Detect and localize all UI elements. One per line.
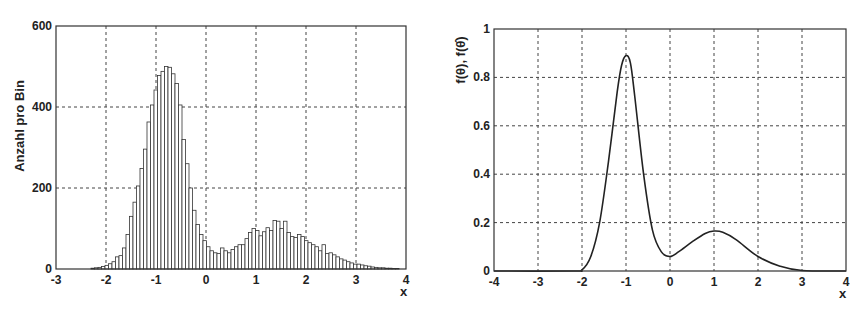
histogram-bars — [91, 67, 399, 270]
histogram-bar — [319, 251, 323, 269]
histogram-bar — [154, 90, 158, 269]
histogram-bar — [350, 263, 354, 269]
histogram-bar — [273, 220, 277, 269]
histogram-bar — [308, 243, 312, 269]
histogram-bar — [322, 245, 326, 269]
histogram-bar — [144, 149, 148, 269]
histogram-bar — [161, 71, 165, 269]
histogram-bar — [298, 235, 302, 269]
histogram-bar — [221, 248, 225, 269]
histogram-bar — [210, 251, 214, 269]
histogram-bar — [231, 250, 235, 269]
histogram-bar — [186, 164, 190, 269]
histogram-bar — [126, 235, 130, 269]
x-tick-label: 2 — [303, 273, 310, 287]
histogram-bar — [175, 84, 179, 269]
histogram-bar — [123, 248, 127, 269]
histogram-bar — [189, 188, 193, 269]
x-tick-label: -1 — [151, 273, 162, 287]
histogram-bar — [116, 257, 120, 269]
y-tick-label: 200 — [32, 181, 52, 195]
histogram-bar — [340, 259, 344, 269]
histogram-bar — [203, 241, 207, 269]
histogram-bar — [315, 247, 319, 269]
x-tick-label: -1 — [621, 275, 632, 289]
histogram-bar — [263, 232, 267, 269]
histogram-bar — [256, 231, 260, 269]
histogram-bar — [109, 264, 113, 269]
x-tick-label: -2 — [577, 275, 588, 289]
histogram-bar — [249, 233, 253, 269]
histogram-bar — [301, 237, 305, 269]
histogram-bar — [182, 139, 186, 269]
y-tick-labels: 0200400600 — [32, 19, 52, 276]
histogram-bar — [312, 245, 316, 269]
x-tick-label: 3 — [799, 275, 806, 289]
x-axis-label: x — [839, 286, 847, 301]
histogram-bar — [112, 262, 116, 269]
y-tick-label: 0.6 — [473, 119, 490, 133]
x-tick-label: 3 — [353, 273, 360, 287]
histogram-chart: -3-2-101234 0200400600 x Anzahl pro Bin — [12, 19, 410, 299]
histogram-bar — [252, 229, 256, 270]
histogram-bar — [287, 233, 291, 269]
histogram-bar — [326, 254, 330, 269]
histogram-bar — [179, 105, 183, 269]
y-axis-label: Anzahl pro Bin — [12, 80, 27, 172]
x-tick-label: -2 — [101, 273, 112, 287]
histogram-bar — [333, 255, 337, 269]
y-tick-label: 0.8 — [473, 70, 490, 84]
histogram-bar — [259, 236, 263, 269]
x-tick-label: 0 — [203, 273, 210, 287]
histogram-bar — [294, 237, 298, 269]
x-tick-label: 1 — [253, 273, 260, 287]
y-tick-label: 0 — [45, 262, 52, 276]
histogram-bar — [200, 235, 204, 269]
histogram-bar — [172, 74, 176, 269]
x-tick-label: 2 — [755, 275, 762, 289]
x-axis-label: x — [400, 284, 408, 299]
x-tick-label: -3 — [533, 275, 544, 289]
x-tick-labels: -3-2-101234 — [51, 273, 410, 287]
histogram-bar — [235, 247, 239, 269]
figure: -3-2-101234 0200400600 x Anzahl pro Bin … — [0, 0, 866, 315]
histogram-bar — [284, 221, 288, 269]
histogram-bar — [196, 224, 200, 269]
histogram-bar — [168, 67, 172, 269]
histogram-bar — [147, 122, 151, 269]
y-axis-label: f(θ), f(θ̂) — [453, 36, 468, 83]
histogram-bar — [217, 254, 221, 269]
histogram-bar — [347, 262, 351, 269]
histogram-bar — [266, 228, 270, 269]
histogram-bar — [357, 264, 361, 269]
grid-lines — [494, 29, 846, 271]
histogram-bar — [343, 260, 347, 269]
histogram-bar — [361, 265, 365, 269]
histogram-bar — [329, 253, 333, 269]
y-tick-label: 400 — [32, 100, 52, 114]
histogram-bar — [238, 245, 242, 269]
histogram-bar — [119, 256, 123, 269]
histogram-bar — [280, 229, 284, 270]
histogram-bar — [158, 75, 162, 269]
histogram-bar — [354, 264, 358, 269]
histogram-bar — [133, 202, 137, 269]
histogram-bar — [336, 257, 340, 269]
y-tick-label: 0.2 — [473, 216, 490, 230]
histogram-bar — [291, 237, 295, 269]
plot-frame — [56, 26, 406, 269]
y-tick-label: 0 — [483, 264, 490, 278]
y-tick-label: 1 — [483, 22, 490, 36]
y-tick-labels: 00.20.40.60.81 — [473, 22, 490, 278]
histogram-bar — [270, 231, 274, 269]
x-tick-label: -3 — [51, 273, 62, 287]
histogram-bar — [151, 105, 155, 269]
x-tick-label: 1 — [711, 275, 718, 289]
histogram-bar — [214, 253, 218, 269]
histogram-bar — [207, 247, 211, 269]
histogram-bar — [242, 245, 246, 269]
y-tick-label: 600 — [32, 19, 52, 33]
histogram-bar — [130, 216, 134, 269]
histogram-bar — [277, 221, 281, 269]
histogram-bar — [245, 239, 249, 269]
